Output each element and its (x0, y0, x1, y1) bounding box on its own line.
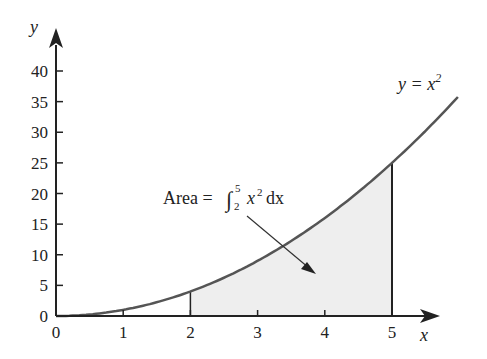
y-tick-label: 5 (40, 276, 49, 295)
chart-figure: 0510152025303540 012345 y x y = x2 Area … (0, 0, 487, 359)
x-axis-label: x (419, 325, 428, 345)
x-tick-label: 2 (186, 323, 195, 342)
y-tick-label: 40 (31, 62, 48, 81)
y-axis-label: y (28, 17, 38, 37)
x-tick-label: 3 (253, 323, 262, 342)
y-tick-label: 20 (31, 185, 48, 204)
curve-label: y = x2 (396, 71, 441, 94)
shaded-area-region (190, 163, 392, 316)
y-tick-label: 10 (31, 246, 48, 265)
area-annotation: Area = ∫ 5 2 x 2 dx (163, 182, 284, 213)
y-axis-ticks: 0510152025303540 (31, 62, 63, 326)
svg-text:x: x (246, 188, 255, 208)
y-tick-label: 35 (31, 93, 48, 112)
y-tick-label: 25 (31, 154, 48, 173)
svg-text:2: 2 (234, 200, 240, 212)
svg-text:Area =: Area = (163, 188, 213, 208)
svg-text:2: 2 (257, 186, 263, 198)
x-tick-label: 1 (119, 323, 128, 342)
x-tick-label: 5 (388, 323, 397, 342)
plot-area: 0510152025303540 012345 y x y = x2 Area … (0, 0, 487, 359)
x-tick-label: 0 (52, 323, 61, 342)
y-tick-label: 0 (40, 307, 49, 326)
svg-text:5: 5 (235, 182, 241, 194)
y-tick-label: 30 (31, 123, 48, 142)
svg-text:dx: dx (266, 188, 284, 208)
y-tick-label: 15 (31, 215, 48, 234)
svg-text:∫: ∫ (224, 187, 234, 213)
x-tick-label: 4 (321, 323, 330, 342)
svg-text:y = x2: y = x2 (396, 71, 441, 94)
